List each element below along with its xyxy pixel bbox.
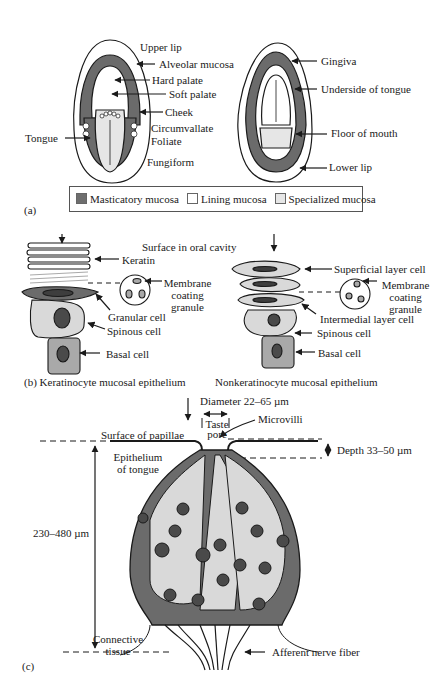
legend-item-specialized: Specialized mucosa	[275, 193, 376, 205]
mouth-tongue-raised-illustration	[238, 43, 312, 182]
label-height-range: 230–480 µm	[33, 527, 89, 539]
label-foliate: Foliate	[151, 135, 182, 147]
label-keratin: Keratin	[122, 254, 155, 266]
label-connective-tissue: Connective tissue	[88, 633, 148, 657]
swatch-masticatory-icon	[76, 193, 87, 204]
label-floor-of-mouth: Floor of mouth	[331, 127, 398, 139]
mucosa-legend: Masticatory mucosa Lining mucosa Special…	[69, 186, 363, 212]
label-spinous-cell-right: Spinous cell	[317, 327, 371, 339]
label-granular-cell: Granular cell	[108, 311, 166, 323]
label-intermedial-layer-cell: Intermedial layer cell	[320, 313, 414, 325]
label-superficial-layer-cell: Superficial layer cell	[334, 263, 426, 275]
label-gingiva: Gingiva	[321, 55, 356, 67]
label-circumvallate: Circumvallate	[151, 122, 213, 134]
label-soft-palate: Soft palate	[169, 88, 216, 100]
diagram-artwork	[0, 0, 440, 686]
label-upper-lip: Upper lip	[140, 41, 182, 53]
label-cheek: Cheek	[165, 106, 193, 118]
label-taste-pore: Taste pore	[203, 419, 231, 439]
label-spinous-cell-left: Spinous cell	[107, 325, 161, 337]
mouth-tongue-up-illustration	[74, 40, 151, 183]
label-diameter: Diameter 22–65 µm	[200, 395, 289, 407]
label-basal-cell-left: Basal cell	[106, 348, 149, 360]
panel-a-label: (a)	[24, 204, 36, 216]
label-epithelium-of-tongue: Epithelium of tongue	[108, 451, 168, 475]
label-basal-cell-right: Basal cell	[318, 347, 361, 359]
taste-bud-illustration	[40, 439, 322, 670]
swatch-lining-icon	[187, 193, 198, 204]
legend-item-masticatory: Masticatory mucosa	[76, 193, 179, 205]
label-microvilli: Microvilli	[258, 413, 303, 425]
label-lower-lip: Lower lip	[329, 161, 372, 173]
caption-keratinocyte: (b) Keratinocyte mucosal epithelium	[24, 376, 186, 388]
caption-nonkeratinocyte: Nonkeratinocyte mucosal epithelium	[215, 376, 378, 388]
label-underside-of-tongue: Underside of tongue	[321, 83, 411, 95]
label-surface-oral-cavity: Surface in oral cavity	[142, 241, 236, 253]
label-alveolar-mucosa: Alveolar mucosa	[159, 58, 234, 70]
label-fungiform: Fungiform	[147, 156, 194, 168]
panel-c-label: (c)	[22, 660, 34, 672]
label-membrane-granule-left: Membrane coating granule	[160, 277, 215, 313]
legend-item-lining: Lining mucosa	[187, 193, 267, 205]
label-membrane-granule-right: Membrane coating granule	[378, 279, 433, 315]
label-afferent-nerve-fiber: Afferent nerve fiber	[272, 646, 360, 658]
label-surface-of-papillae: Surface of papillae	[101, 429, 184, 441]
label-depth: Depth 33–50 µm	[337, 444, 412, 456]
label-hard-palate: Hard palate	[152, 74, 203, 86]
swatch-specialized-icon	[275, 193, 286, 204]
label-tongue: Tongue	[25, 132, 58, 144]
